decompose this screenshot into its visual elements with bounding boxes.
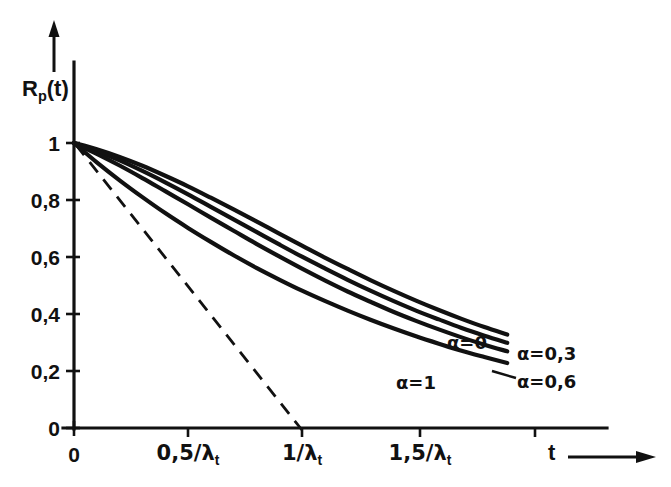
x-tick-label-1-5-lambda-t-text: 1,5/λ: [389, 441, 447, 465]
y-tick-label-0-text: 0: [48, 417, 60, 440]
curve-label-alpha-0-6: α=0,6: [517, 373, 576, 391]
curve-label-alpha-1-text: α=1: [396, 372, 436, 393]
y-tick-label-0-4: 0,4: [8, 304, 60, 325]
y-axis-title-tail: (t): [47, 76, 69, 101]
y-axis-title-subscript: p: [38, 88, 47, 104]
figure-container: Rp(t) 1 0,8 0,6 0,4 0,2 0 0 0,5/λt 1/λt …: [0, 0, 671, 487]
y-tick-label-0-4-text: 0,4: [31, 303, 60, 326]
x-axis-title-text: t: [548, 440, 555, 465]
curve-label-alpha-0-3-text: α=0,3: [517, 343, 576, 364]
x-tick-label-1-lambda-t-subscript: t: [317, 452, 322, 468]
y-axis-title-base: R: [22, 76, 38, 101]
curve-label-alpha-1: α=1: [396, 374, 436, 392]
y-tick-label-1-text: 1: [48, 132, 60, 155]
y-axis-arrow-icon: [49, 20, 60, 72]
x-tick-label-0-5-lambda-t: 0,5/λt: [133, 442, 243, 468]
x-tick-label-1-5-lambda-t: 1,5/λt: [365, 442, 475, 468]
curve-alpha-0: [74, 143, 507, 335]
leader-line-alpha-0-6: [492, 371, 516, 378]
x-axis-title: t: [548, 442, 555, 464]
y-tick-label-0-8-text: 0,8: [31, 189, 60, 212]
x-tick-label-1-5-lambda-t-subscript: t: [447, 452, 452, 468]
curve-label-alpha-0-6-text: α=0,6: [517, 371, 576, 392]
curve-label-alpha-0: α=0: [447, 334, 487, 352]
y-tick-label-0-2: 0,2: [8, 361, 60, 382]
curve-label-alpha-0-3: α=0,3: [517, 345, 576, 363]
x-tick-label-0: 0: [54, 444, 94, 465]
x-axis-arrow-icon: [566, 444, 658, 470]
y-tick-label-0: 0: [18, 418, 60, 439]
x-tick-label-0-text: 0: [68, 443, 80, 466]
y-tick-label-1: 1: [18, 133, 60, 154]
x-tick-label-1-lambda-t: 1/λt: [252, 442, 352, 468]
y-axis-title: Rp(t): [22, 78, 69, 104]
y-tick-label-0-6-text: 0,6: [31, 246, 60, 269]
y-tick-label-0-8: 0,8: [8, 190, 60, 211]
x-tick-label-1-lambda-t-text: 1/λ: [282, 441, 318, 465]
y-tick-label-0-2-text: 0,2: [31, 360, 60, 383]
x-tick-label-0-5-lambda-t-text: 0,5/λ: [157, 441, 215, 465]
curve-label-alpha-0-text: α=0: [447, 332, 487, 353]
chart-plot-area: [0, 0, 671, 487]
x-tick-label-0-5-lambda-t-subscript: t: [215, 452, 220, 468]
y-tick-label-0-6: 0,6: [8, 247, 60, 268]
